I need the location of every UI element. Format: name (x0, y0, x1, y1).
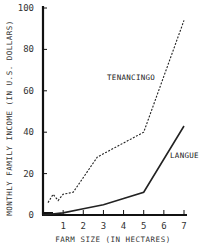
axes (42, 6, 187, 215)
y-axis-title: MONTHLY FAMILY INCOME (IN U.S. DOLLARS) (5, 20, 14, 216)
y-tick-label: 0 (29, 210, 34, 220)
series-lines (43, 20, 184, 215)
langue-label: LANGUE (170, 151, 199, 160)
tenancingo-line (48, 20, 184, 202)
x-axis-ticks: 1234567 (60, 210, 186, 231)
y-tick-label: 80 (23, 44, 34, 54)
x-tick-label: 4 (121, 221, 126, 231)
y-tick-label: 60 (23, 86, 34, 96)
y-tick-label: 20 (23, 169, 34, 179)
langue-line (43, 126, 184, 215)
x-tick-label: 2 (81, 221, 86, 231)
x-tick-label: 5 (141, 221, 146, 231)
line-chart: 020406080100 1234567 TENANCINGO LANGUE F… (0, 0, 201, 250)
x-tick-label: 3 (101, 221, 106, 231)
tenancingo-label: TENANCINGO (107, 73, 155, 82)
x-tick-label: 6 (161, 221, 166, 231)
y-tick-label: 40 (23, 127, 34, 137)
x-tick-label: 1 (60, 221, 65, 231)
y-tick-label: 100 (18, 3, 34, 13)
x-tick-label: 7 (181, 221, 186, 231)
x-axis-title: FARM SIZE (IN HECTARES) (55, 235, 170, 244)
